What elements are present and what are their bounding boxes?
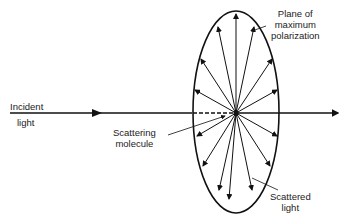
- molecule-pointer-line: [168, 116, 225, 135]
- label-incident-line1: Incident: [10, 101, 43, 112]
- label-plane: Plane of maximum polarization: [271, 8, 320, 41]
- label-molecule-line2: molecule: [113, 138, 156, 149]
- label-scattered: Scattered light: [270, 191, 311, 213]
- scattering-molecule-dot: [234, 111, 239, 116]
- incident-arrowhead-icon: [92, 109, 102, 117]
- label-plane-line2: maximum: [271, 19, 320, 30]
- label-incident-line2: light: [10, 117, 43, 128]
- scattered-rays: [195, 14, 277, 199]
- label-scattered-line2: light: [270, 202, 311, 213]
- label-plane-line3: polarization: [271, 30, 320, 41]
- label-incident: Incident light: [10, 101, 43, 128]
- label-molecule-line1: Scattering: [113, 127, 156, 138]
- label-scattered-line1: Scattered: [270, 191, 311, 202]
- label-molecule: Scattering molecule: [113, 127, 156, 149]
- label-plane-line1: Plane of: [271, 8, 320, 19]
